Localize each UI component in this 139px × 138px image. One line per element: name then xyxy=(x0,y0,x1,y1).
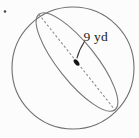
sphere-diagram: 9 yd xyxy=(0,0,139,138)
sphere-outline xyxy=(12,7,134,129)
radius-label: 9 yd xyxy=(84,29,108,44)
stray-dot xyxy=(4,10,7,13)
diagram-canvas: 9 yd xyxy=(0,0,139,138)
label-leader-line xyxy=(77,42,85,59)
